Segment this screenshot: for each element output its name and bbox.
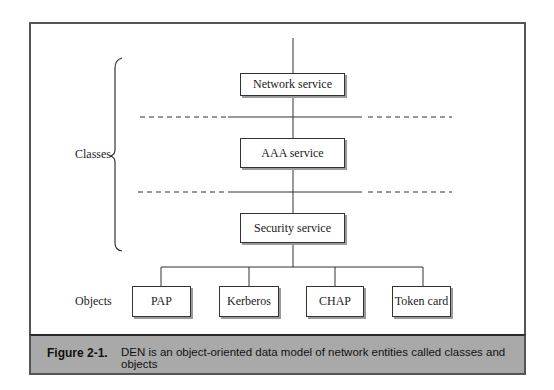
object-box-token-card: Token card [392,286,451,317]
connector-lines [0,0,554,390]
object-box-kerberos: Kerberos [219,286,279,317]
object-box-chap: CHAP [306,286,364,317]
class-box-network-service: Network service [240,73,345,96]
class-box-security-service: Security service [240,213,345,243]
objects-label: Objects [75,294,112,309]
class-label: Security service [254,221,331,236]
classes-bracket [110,58,122,251]
object-label: Token card [395,294,448,309]
object-label: PAP [151,294,172,309]
classes-label: Classes [75,147,111,162]
caption-text: DEN is an object-oriented data model of … [121,346,524,370]
caption-number: Figure 2-1. [47,346,108,360]
class-box-aaa-service: AAA service [240,138,345,168]
object-box-pap: PAP [132,286,191,317]
class-label: AAA service [261,146,323,161]
object-label: Kerberos [227,294,271,309]
class-label: Network service [253,77,332,92]
figure-caption: Figure 2-1. DEN is an object-oriented da… [29,334,526,375]
object-label: CHAP [319,294,351,309]
